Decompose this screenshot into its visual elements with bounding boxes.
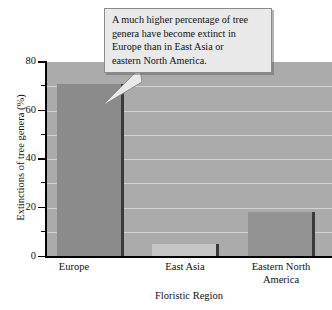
bar-europe[interactable] [57,84,124,256]
x-tick-label-eastern-north-america-line2: America [234,274,328,287]
bar-eastern-north-america[interactable] [248,212,315,256]
bar-chart-figure: 80 60 40 20 0 Extinctions of tree genera… [0,0,332,310]
x-tick-label-europe: Europe [27,261,121,274]
y-tick-0 [38,256,45,258]
plot-area [46,62,332,256]
callout-line-1: A much higher percentage of tree [112,13,265,27]
y-axis-line [45,61,47,257]
x-axis-line [45,256,332,258]
y-tick-60 [38,110,45,112]
x-axis-title: Floristic Region [46,290,332,301]
callout-line-4: eastern North America. [112,54,265,68]
bar-east-asia[interactable] [152,244,219,256]
y-tick-20 [38,207,45,209]
y-axis-title: Extinctions of tree genera (%) [15,58,26,258]
bar-europe-shadow [121,84,124,256]
x-tick-label-east-asia-line1: East Asia [138,261,232,274]
x-tick-label-eastern-north-america: Eastern North America [234,261,328,286]
x-tick-label-eastern-north-america-line1: Eastern North [234,261,328,274]
bar-eastern-north-america-shadow [312,212,315,256]
y-tick-minor-70 [41,85,45,86]
callout-line-2: genera have become extinct in [112,27,265,41]
y-tick-minor-50 [41,134,45,135]
y-tick-40 [38,158,45,160]
callout-annotation[interactable]: A much higher percentage of tree genera … [104,8,272,73]
callout-line-3: Europe than in East Asia or [112,40,265,54]
bar-east-asia-shadow [216,244,219,256]
y-tick-80 [38,61,45,63]
x-tick-label-europe-line1: Europe [27,261,121,274]
y-tick-minor-10 [41,231,45,232]
x-tick-label-east-asia: East Asia [138,261,232,274]
y-tick-minor-30 [41,182,45,183]
